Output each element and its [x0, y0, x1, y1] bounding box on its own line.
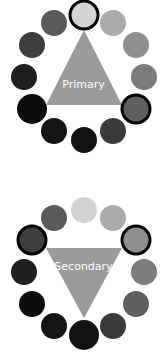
secondary-color-wheel: Secondary	[0, 180, 167, 360]
primary-triangle	[46, 30, 122, 105]
secondary-label: Secondary	[0, 260, 167, 273]
secondary-triangle	[46, 248, 122, 318]
primary-color-wheel: Primary	[0, 0, 167, 180]
primary-label: Primary	[0, 78, 167, 91]
